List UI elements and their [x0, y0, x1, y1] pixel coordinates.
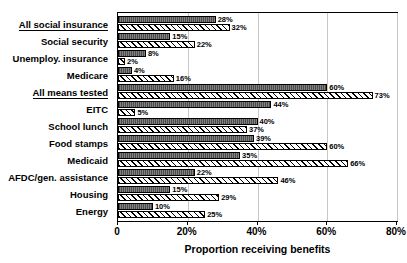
bar-value-label: 25% [207, 211, 222, 218]
bar-light [118, 194, 219, 201]
bar-value-label: 73% [375, 92, 390, 99]
category-label-text: Social security [41, 36, 108, 47]
bar-value-label: 66% [350, 160, 365, 167]
category-label: Medicaid [67, 152, 108, 169]
bar-group: 15%22% [118, 33, 397, 50]
category-label-text: Food stamps [49, 138, 108, 149]
bar-value-label: 39% [256, 135, 271, 142]
category-label: Housing [70, 186, 108, 203]
bar-dark [118, 169, 195, 176]
gridline-80% [397, 13, 398, 221]
category-label-text: AFDC/gen. assistance [8, 172, 108, 183]
bar-value-label: 46% [280, 177, 295, 184]
bar-light [118, 109, 135, 116]
category-label-text: EITC [86, 104, 108, 115]
bar-light [118, 211, 205, 218]
bar-light [118, 92, 373, 99]
category-label-text: Energy [76, 206, 108, 217]
category-label-text: All means tested [33, 87, 109, 99]
x-tick-label: 80% [386, 226, 406, 237]
bar-value-label: 2% [127, 58, 138, 65]
bar-dark [118, 186, 170, 193]
category-axis: All social insuranceSocial securityUnemp… [0, 14, 112, 218]
category-label: Food stamps [49, 135, 108, 152]
x-tick-label: 0 [114, 226, 120, 237]
category-label: Unemploy. insurance [13, 50, 108, 67]
x-tick [257, 221, 258, 225]
bar-light [118, 75, 174, 82]
bar-dark [118, 118, 258, 125]
category-label: Medicare [67, 67, 108, 84]
bar-group: 35%66% [118, 152, 397, 169]
bar-light [118, 126, 247, 133]
category-label: All social insurance [19, 16, 108, 33]
bar-chart: All social insuranceSocial securityUnemp… [0, 0, 407, 263]
bar-light [118, 41, 195, 48]
bar-value-label: 4% [134, 67, 145, 74]
bar-value-label: 44% [273, 101, 288, 108]
bar-group: 44%5% [118, 101, 397, 118]
bar-group: 4%16% [118, 67, 397, 84]
bar-group: 10%25% [118, 203, 397, 220]
bar-dark [118, 203, 153, 210]
bar-value-label: 35% [242, 152, 257, 159]
plot-area: 28%32%15%22%8%2%4%16%60%73%44%5%40%37%39… [117, 12, 398, 222]
bar-dark [118, 101, 271, 108]
category-label: All means tested [33, 84, 109, 101]
x-tick-label: 40% [246, 226, 266, 237]
bar-light [118, 160, 348, 167]
bar-value-label: 5% [137, 109, 148, 116]
bar-value-label: 15% [172, 33, 187, 40]
bar-group: 8%2% [118, 50, 397, 67]
category-label: School lunch [48, 118, 108, 135]
bar-light [118, 24, 230, 31]
bar-value-label: 60% [329, 84, 344, 91]
bar-value-label: 15% [172, 186, 187, 193]
bar-value-label: 32% [232, 24, 247, 31]
bar-dark [118, 67, 132, 74]
bar-group: 39%60% [118, 135, 397, 152]
bar-group: 28%32% [118, 16, 397, 33]
x-tick [117, 221, 118, 225]
bar-dark [118, 135, 254, 142]
x-axis: 020%40%60%80% [117, 221, 398, 241]
bar-group: 15%29% [118, 186, 397, 203]
bar-group: 22%46% [118, 169, 397, 186]
bar-dark [118, 152, 240, 159]
bar-value-label: 16% [176, 75, 191, 82]
category-label: AFDC/gen. assistance [8, 169, 108, 186]
bar-value-label: 22% [197, 41, 212, 48]
category-label: EITC [86, 101, 108, 118]
x-tick [396, 221, 397, 225]
x-tick [326, 221, 327, 225]
bar-value-label: 22% [197, 169, 212, 176]
bar-light [118, 177, 278, 184]
bar-dark [118, 16, 216, 23]
x-tick [187, 221, 188, 225]
x-tick-label: 60% [316, 226, 336, 237]
x-tick-label: 20% [177, 226, 197, 237]
bar-value-label: 37% [249, 126, 264, 133]
category-label: Social security [41, 33, 108, 50]
bar-dark [118, 33, 170, 40]
bar-dark [118, 50, 146, 57]
category-label-text: All social insurance [19, 19, 108, 31]
category-label-text: Housing [70, 189, 108, 200]
bar-group: 40%37% [118, 118, 397, 135]
bar-value-label: 40% [260, 118, 275, 125]
category-label: Energy [76, 203, 108, 220]
bar-dark [118, 84, 327, 91]
bar-value-label: 60% [329, 143, 344, 150]
bar-group: 60%73% [118, 84, 397, 101]
category-label-text: Unemploy. insurance [13, 53, 108, 64]
bar-value-label: 29% [221, 194, 236, 201]
category-label-text: Medicaid [67, 155, 108, 166]
category-label-text: School lunch [48, 121, 108, 132]
bar-light [118, 143, 327, 150]
category-label-text: Medicare [67, 70, 108, 81]
bar-light [118, 58, 125, 65]
x-axis-title: Proportion receiving benefits [117, 243, 398, 255]
bar-value-label: 10% [155, 203, 170, 210]
bar-value-label: 28% [218, 16, 233, 23]
bar-value-label: 8% [148, 50, 159, 57]
